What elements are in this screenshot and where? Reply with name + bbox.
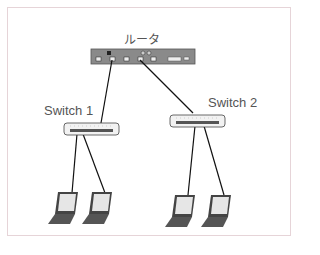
switch-1-icon [64, 123, 119, 135]
laptop-icon [48, 192, 78, 224]
router-icon [91, 49, 195, 64]
switch-2-label: Switch 2 [208, 95, 257, 110]
switch-1-label: Switch 1 [44, 103, 93, 118]
laptop-icon [165, 195, 195, 227]
laptop-icon [201, 195, 231, 227]
switch-2-icon [170, 115, 225, 127]
laptop-icon [82, 192, 112, 224]
router-label: ルータ [124, 30, 160, 47]
